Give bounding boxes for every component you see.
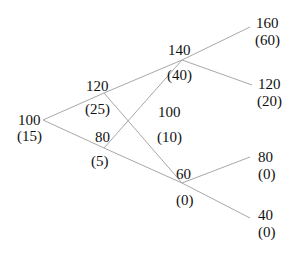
node-price-n3uud: 120 <box>258 76 281 92</box>
node-value-n1u: (25) <box>85 101 110 117</box>
node-price-n1d: 80 <box>95 129 110 145</box>
edge-n2uu-n3uuu <box>182 27 250 60</box>
node-value-n2dd: (0) <box>176 192 194 208</box>
node-price-n3udd: 80 <box>258 149 273 165</box>
node-price-n2dd: 60 <box>176 166 191 182</box>
node-price-n0: 100 <box>18 112 41 128</box>
node-value-n0: (15) <box>17 128 42 144</box>
node-value-n2ud: (10) <box>157 129 182 145</box>
edge-n2dd-n3udd <box>182 157 250 183</box>
edge-n1d-n2dd <box>104 148 182 183</box>
node-price-n2uu: 140 <box>168 42 191 58</box>
node-price-n1u: 120 <box>86 78 109 94</box>
node-value-n3uuu: (60) <box>255 32 280 48</box>
node-price-n3uuu: 160 <box>256 15 279 31</box>
edge-n2uu-n3uud <box>182 60 252 85</box>
node-value-n3ddd: (0) <box>258 224 276 240</box>
node-value-n3uud: (20) <box>257 93 282 109</box>
node-value-n1d: (5) <box>91 153 109 169</box>
node-value-n2uu: (40) <box>167 67 192 83</box>
node-price-n3ddd: 40 <box>258 207 273 223</box>
node-price-n2ud: 100 <box>158 104 181 120</box>
node-value-n3udd: (0) <box>258 166 276 182</box>
